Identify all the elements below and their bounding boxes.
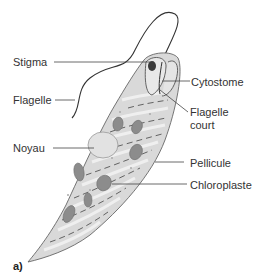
label-pellicule: Pellicule	[190, 157, 231, 169]
label-flagelle-court-line1: Flagelle	[190, 106, 229, 118]
nucleus	[88, 132, 118, 158]
label-flagelle: Flagelle	[13, 94, 52, 106]
euglena-diagram: Stigma Flagelle Noyau Cytostome Flagelle…	[0, 0, 257, 275]
stigma-spot	[148, 61, 156, 71]
label-noyau: Noyau	[13, 142, 45, 154]
label-stigma: Stigma	[13, 56, 47, 68]
label-chloroplaste: Chloroplaste	[190, 179, 252, 191]
label-cytostome: Cytostome	[191, 76, 244, 88]
label-flagelle-court-line2: court	[190, 119, 214, 131]
panel-label: a)	[13, 260, 23, 272]
euglena-illustration	[0, 0, 257, 275]
